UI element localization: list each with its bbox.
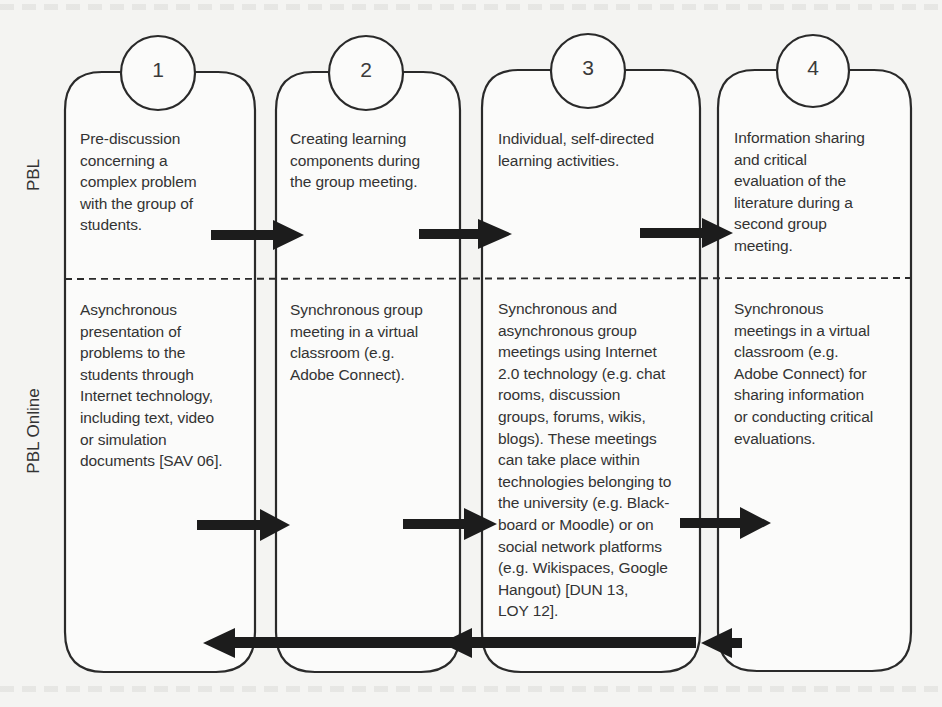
step-number-4: 4: [793, 56, 833, 80]
online-step-1-text: Asynchronous presentation of problems to…: [80, 299, 254, 472]
pbl-step-3-text: Individual, self-directed learning activ…: [498, 128, 698, 171]
row-label-pbl: PBL: [24, 145, 44, 205]
online-step-4-text: Synchronous meetings in a virtual classr…: [734, 298, 909, 449]
online-step-3-text: Synchronous and asynchronous group meeti…: [498, 298, 698, 622]
step-number-1: 1: [138, 58, 178, 82]
step-number-2: 2: [346, 58, 386, 82]
online-step-2-text: Synchronous group meeting in a virtual c…: [290, 299, 458, 385]
pbl-step-1-text: Pre-discussion concerning a complex prob…: [80, 128, 250, 236]
row-label-pbl-online: PBL Online: [24, 385, 44, 477]
pbl-step-4-text: Information sharing and critical evaluat…: [734, 127, 909, 257]
pbl-step-2-text: Creating learning components during the …: [290, 128, 458, 193]
step-number-3: 3: [568, 56, 608, 80]
